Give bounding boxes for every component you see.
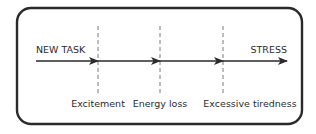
stage-label-excitement: Excitement: [71, 98, 125, 109]
end-label: STRESS: [251, 44, 288, 55]
process-diagram: NEW TASK STRESS Excitement Energy loss E…: [0, 0, 316, 134]
start-label: NEW TASK: [36, 44, 86, 55]
stage-label-energy-loss: Energy loss: [133, 98, 188, 109]
stage-label-excessive-tiredness: Excessive tiredness: [203, 98, 296, 109]
